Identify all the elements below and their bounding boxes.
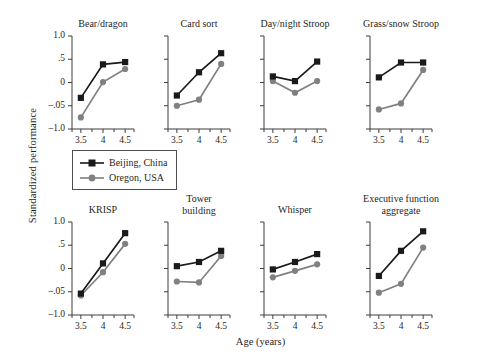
data-point-marker [376, 74, 382, 80]
panel-title: Whisper [278, 204, 312, 216]
data-point-marker [376, 106, 382, 112]
data-point-marker [376, 290, 382, 296]
data-point-marker [100, 260, 106, 266]
x-tick-label: 3.5 [75, 322, 87, 332]
panel-3: Day/night Stroop3.544.5 [264, 36, 326, 129]
series-oregon [174, 61, 224, 109]
y-axis-title: Standardized performance [27, 61, 38, 271]
data-point-marker [376, 273, 382, 279]
panel-title-line: Bear/dragon [78, 18, 127, 30]
panel-4: Grass/snow Stroop3.544.5 [370, 36, 432, 129]
x-tick-label: 4 [101, 322, 106, 332]
legend: Beijing, China Oregon, USA [72, 150, 177, 190]
x-tick-label: 3.5 [171, 322, 183, 332]
data-point-marker [174, 278, 180, 284]
x-tick-label: 4 [293, 322, 298, 332]
series-oregon [78, 241, 128, 299]
data-point-marker [398, 281, 404, 287]
panel-title: Executive functionaggregate [363, 193, 439, 216]
plot-area [160, 221, 236, 326]
data-point-marker [100, 79, 106, 85]
panel-title-line: Card sort [181, 18, 218, 30]
data-point-marker [398, 59, 404, 65]
data-point-marker [292, 90, 298, 96]
panel-title: KRISP [89, 204, 117, 216]
x-tick-label: 4.5 [417, 136, 429, 146]
data-point-marker [174, 263, 180, 269]
x-tick-label: 4 [293, 136, 298, 146]
data-point-marker [420, 67, 426, 73]
data-point-marker [122, 66, 128, 72]
data-point-marker [122, 59, 128, 65]
data-point-marker [270, 73, 276, 79]
data-point-marker [196, 69, 202, 75]
y-tick-label: 0 [60, 78, 65, 88]
plot-area [64, 35, 140, 140]
x-tick-label: 3.5 [267, 136, 279, 146]
panel-title-line: Tower [182, 193, 215, 205]
x-tick-label: 4 [399, 322, 404, 332]
data-point-marker [292, 268, 298, 274]
axes [366, 36, 432, 133]
data-point-marker [122, 241, 128, 247]
data-point-marker [174, 103, 180, 109]
legend-item-beijing: Beijing, China [79, 155, 167, 170]
panel-title: Grass/snow Stroop [363, 18, 439, 30]
data-point-marker [270, 266, 276, 272]
panel-7: Whisper3.544.5 [264, 222, 326, 315]
y-tick-label: 0 [60, 264, 65, 274]
x-tick-label: 4 [101, 136, 106, 146]
plot-area [256, 35, 332, 140]
x-axis-title: Age (years) [0, 336, 485, 347]
x-tick-label: 3.5 [267, 322, 279, 332]
axes [164, 222, 230, 319]
plot-canvas [362, 221, 438, 326]
panel-title-line: Day/night Stroop [260, 18, 329, 30]
data-point-marker [218, 248, 224, 254]
data-point-marker [122, 230, 128, 236]
data-point-marker [420, 228, 426, 234]
data-point-marker [174, 92, 180, 98]
legend-marker-square-icon [79, 157, 105, 169]
plot-area [362, 221, 438, 326]
data-point-marker [78, 291, 84, 297]
data-point-marker [292, 78, 298, 84]
panel-title: Card sort [181, 18, 218, 30]
data-point-marker [420, 59, 426, 65]
plot-area [362, 35, 438, 140]
x-tick-label: 4.5 [215, 136, 227, 146]
series-beijing [78, 230, 128, 297]
y-tick-label: –1.0 [48, 124, 65, 134]
plot-canvas [362, 35, 438, 140]
x-tick-label: 3.5 [373, 136, 385, 146]
panel-title: Bear/dragon [78, 18, 127, 30]
x-tick-label: 3.5 [75, 136, 87, 146]
x-tick-label: 4.5 [417, 322, 429, 332]
data-point-marker [196, 259, 202, 265]
plot-canvas [256, 35, 332, 140]
data-point-marker [100, 61, 106, 67]
panel-title-line: building [182, 205, 215, 217]
data-point-marker [196, 97, 202, 103]
panel-title-line: KRISP [89, 204, 117, 216]
series-oregon [174, 253, 224, 286]
y-tick-label: –1.0 [48, 310, 65, 320]
y-tick-label: .5 [58, 241, 65, 251]
x-tick-label: 4 [197, 322, 202, 332]
data-point-marker [196, 279, 202, 285]
series-oregon [78, 66, 128, 121]
axes [366, 222, 432, 319]
legend-marker-circle-icon [79, 172, 105, 184]
panel-title: Day/night Stroop [260, 18, 329, 30]
y-tick-label: –.05 [48, 287, 65, 297]
panel-title: Towerbuilding [182, 193, 215, 216]
data-point-marker [314, 261, 320, 267]
y-tick-label: 1.0 [53, 31, 65, 41]
plot-canvas [256, 221, 332, 326]
data-point-marker [314, 251, 320, 257]
axes [260, 36, 326, 133]
plot-area [256, 221, 332, 326]
plot-area [64, 221, 140, 326]
panel-6: Towerbuilding3.544.5 [168, 222, 230, 315]
data-point-marker [314, 78, 320, 84]
